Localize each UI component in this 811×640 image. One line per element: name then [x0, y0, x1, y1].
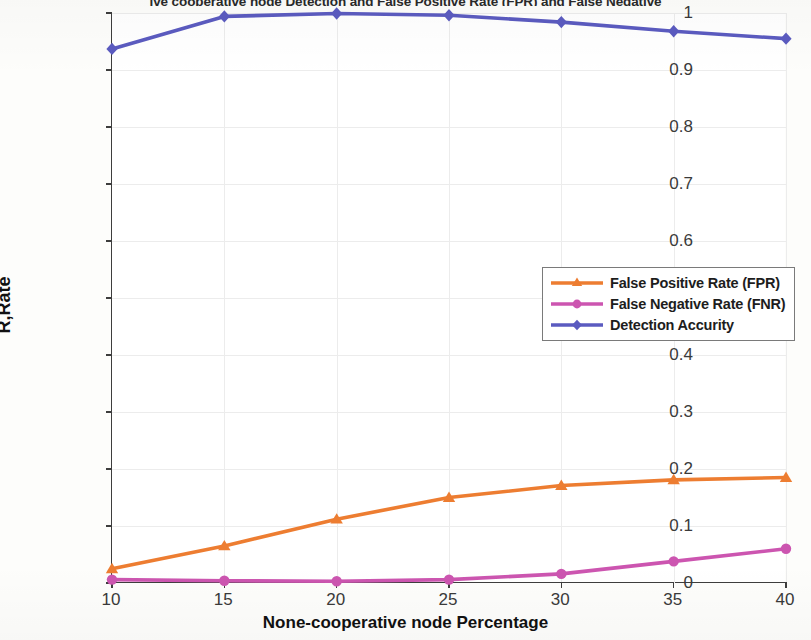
- y-tick-label: 0.1: [669, 516, 693, 536]
- data-point-marker: [668, 556, 678, 566]
- y-axis-title: R,Rate: [0, 276, 15, 333]
- data-point-marker: [219, 576, 229, 586]
- data-point-marker: [107, 574, 117, 584]
- y-tick-label: 0: [684, 573, 693, 593]
- y-tick-label: 0.4: [669, 345, 693, 365]
- data-point-marker: [219, 10, 230, 22]
- legend-label-fnr: False Negative Rate (FNR): [610, 296, 786, 312]
- x-tick-label: 20: [326, 590, 345, 610]
- legend-line-sample-detection-accuracy: [549, 316, 605, 334]
- legend-line-sample-fnr: [549, 295, 605, 313]
- data-point-marker: [444, 574, 454, 584]
- y-tick-label: 0.2: [669, 459, 693, 479]
- data-point-marker: [331, 576, 341, 586]
- data-point-marker: [106, 43, 117, 55]
- data-point-marker: [443, 9, 454, 21]
- x-tick-label: 25: [439, 590, 458, 610]
- data-point-marker: [781, 544, 791, 554]
- y-tick-label: 0.8: [669, 117, 693, 137]
- legend-item-fnr: False Negative Rate (FNR): [549, 293, 788, 314]
- x-tick-label: 10: [102, 590, 121, 610]
- y-tick-label: 0.6: [669, 231, 693, 251]
- chart-figure: ive cooperative node Detection and False…: [0, 0, 811, 640]
- data-point-marker: [668, 25, 679, 37]
- y-tick-label: 0.7: [669, 174, 693, 194]
- data-point-marker: [556, 16, 567, 28]
- legend-label-fpr: False Positive Rate (FPR): [610, 275, 780, 291]
- x-tick-label: 15: [214, 590, 233, 610]
- legend-label-detection-accuracy: Detection Accurity: [610, 317, 734, 333]
- legend-line-sample-fpr: [549, 274, 605, 292]
- legend-item-detection-accuracy: Detection Accurity: [549, 314, 788, 335]
- legend-item-fpr: False Positive Rate (FPR): [549, 272, 788, 293]
- y-tick-label: 0.3: [669, 402, 693, 422]
- y-tick-label: 1: [684, 3, 693, 23]
- y-tick-label: 0.9: [669, 60, 693, 80]
- data-point-marker: [331, 7, 342, 19]
- x-tick-label: 35: [663, 590, 682, 610]
- x-tick-label: 30: [551, 590, 570, 610]
- x-tick-label: 40: [776, 590, 795, 610]
- x-axis-title: None-cooperative node Percentage: [0, 613, 811, 633]
- legend: False Positive Rate (FPR) False Negative…: [542, 267, 795, 341]
- data-point-marker: [556, 569, 566, 579]
- data-point-marker: [780, 32, 791, 44]
